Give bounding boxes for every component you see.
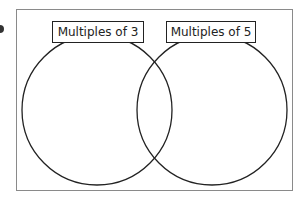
set-circle-multiples-of-5: [137, 35, 287, 185]
set-label-multiples-of-3: Multiples of 3: [52, 21, 144, 43]
venn-diagram: [0, 0, 302, 198]
set-label-multiples-of-5: Multiples of 5: [166, 21, 256, 43]
set-circle-multiples-of-3: [22, 35, 172, 185]
